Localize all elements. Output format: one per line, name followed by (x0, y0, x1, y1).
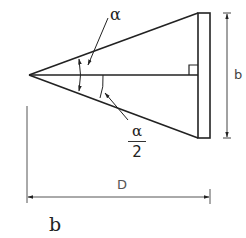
figure-caption: b (49, 215, 61, 234)
fraction-bar (128, 141, 146, 142)
alpha-label: α (110, 7, 121, 23)
half-alpha-pointer-arrow (105, 93, 128, 120)
diagram-canvas (0, 0, 246, 238)
vertical-plate (198, 13, 210, 138)
b-dimension-label: b (234, 68, 242, 81)
half-alpha-arc (100, 75, 103, 98)
alpha-pointer-arrow (88, 18, 108, 65)
half-alpha-label: α 2 (128, 123, 146, 160)
triangle-lower-edge (29, 75, 198, 138)
half-alpha-denominator: 2 (128, 144, 146, 160)
b-dimension (223, 13, 231, 138)
d-dimension-label: D (117, 178, 127, 191)
triangle (29, 13, 198, 138)
right-angle-marker (189, 65, 198, 75)
half-alpha-numerator: α (128, 123, 146, 139)
